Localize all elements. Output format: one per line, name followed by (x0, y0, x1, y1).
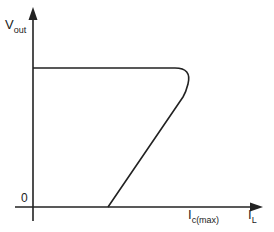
ic-max-label-sub: c(max) (192, 215, 220, 225)
y-axis-arrow-icon (29, 7, 38, 20)
foldback-characteristic-diagram (0, 0, 274, 232)
y-axis-label: Vout (5, 16, 26, 32)
y-axis-label-main: V (5, 17, 14, 32)
y-axis-label-sub: out (14, 25, 27, 35)
ic-max-label: Ic(max) (188, 206, 219, 222)
characteristic-curve (33, 68, 189, 207)
origin-label: 0 (21, 192, 28, 204)
x-axis-label: IL (248, 206, 257, 222)
x-axis-label-sub: L (252, 215, 257, 225)
